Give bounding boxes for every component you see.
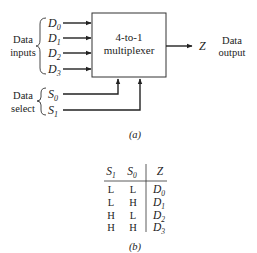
header-s0: S0 (127, 165, 137, 180)
output-name: Z (199, 39, 206, 53)
row2-s1: H (107, 210, 115, 221)
data-select-brace (37, 88, 46, 115)
block-label-line1: 4-to-1 (116, 31, 143, 43)
input-label-d1: D1 (47, 31, 61, 47)
row3-s0: H (129, 222, 137, 233)
row2-s0: L (130, 210, 136, 221)
caption-b: (b) (129, 241, 142, 253)
row3-s1: H (107, 222, 115, 233)
row0-s0: L (130, 184, 136, 195)
data-inputs-label-line1: Data (13, 34, 33, 45)
select-label-s1: S1 (48, 103, 58, 119)
row0-s1: L (108, 184, 114, 195)
select-lines (63, 79, 140, 110)
truth-table: S1 S0 Z L L D0 L H D1 H L D2 H H D3 (104, 164, 167, 236)
output-label-line2: output (219, 47, 246, 58)
caption-a: (a) (129, 129, 142, 141)
data-select-label-line2: select (11, 103, 35, 114)
data-inputs-brace (36, 18, 46, 74)
row1-s0: H (129, 197, 137, 208)
header-s1: S1 (106, 165, 116, 180)
block-label-line2: multiplexer (104, 44, 155, 56)
data-inputs-label-line2: inputs (10, 47, 36, 58)
input-label-d0: D0 (47, 16, 61, 32)
header-z: Z (157, 165, 164, 177)
data-input-lines (63, 23, 91, 69)
data-select-label-line1: Data (13, 90, 33, 101)
input-label-d3: D3 (47, 62, 61, 78)
output-label-line1: Data (222, 35, 242, 46)
select-label-s0: S0 (48, 87, 58, 103)
row1-s1: L (108, 197, 114, 208)
input-label-d2: D2 (47, 46, 61, 62)
multiplexer-diagram: 4-to-1 multiplexer D0 D1 D2 D3 Data inpu… (0, 0, 257, 253)
